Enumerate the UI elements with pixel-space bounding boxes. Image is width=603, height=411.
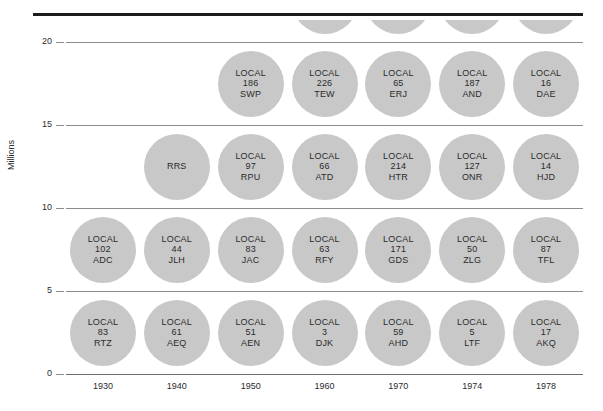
bubble-number: 127 xyxy=(464,161,480,172)
bubble-1930-RTZ[interactable]: LOCAL83RTZ xyxy=(70,300,136,366)
y-tick-label-10: 10 xyxy=(26,203,52,212)
bubble-prefix: LOCAL xyxy=(383,317,414,328)
y-tick-mark-0 xyxy=(56,374,64,375)
bubble-code: TFL xyxy=(538,255,555,266)
bubble-prefix: LOCAL xyxy=(383,234,414,245)
bubble-code: AHD xyxy=(389,338,409,349)
bubble-code: RTZ xyxy=(94,338,112,349)
bubble-code: AKQ xyxy=(536,338,556,349)
bubble-number: 5 xyxy=(470,327,475,338)
bubble-1978-DAE[interactable]: LOCAL16DAE xyxy=(513,51,579,117)
bubble-prefix: LOCAL xyxy=(162,317,193,328)
bubble-1940-AEQ[interactable]: LOCAL61AEQ xyxy=(144,300,210,366)
bubble-code: JAC xyxy=(242,255,260,266)
y-tick-label-20: 20 xyxy=(26,37,52,46)
bubble-1978-TFL[interactable]: LOCAL87TFL xyxy=(513,217,579,283)
bubble-1978-HJD[interactable]: LOCAL14HJD xyxy=(513,134,579,200)
bubble-1970-AHD[interactable]: LOCAL59AHD xyxy=(365,300,431,366)
x-tick-label-1940: 1940 xyxy=(147,381,207,391)
bubble-number: 66 xyxy=(319,161,329,172)
bubble-prefix: LOCAL xyxy=(383,68,414,79)
bubble-prefix: LOCAL xyxy=(88,234,119,245)
bubble-1960-DJK[interactable]: LOCAL3DJK xyxy=(292,300,358,366)
x-tick-label-1950: 1950 xyxy=(221,381,281,391)
bubble-number: 187 xyxy=(464,78,480,89)
plot-area: LOCAL83RTZLOCAL102ADCLOCAL61AEQLOCAL44JL… xyxy=(66,20,583,374)
bubble-number: 65 xyxy=(393,78,403,89)
bubble-number: 16 xyxy=(541,78,551,89)
bubble-1970-YGS[interactable]: LOCAL4YGS xyxy=(365,20,431,34)
bubble-1960-ATD[interactable]: LOCAL66ATD xyxy=(292,134,358,200)
y-tick-label-0: 0 xyxy=(26,369,52,378)
bubble-number: 3 xyxy=(322,327,327,338)
bubble-prefix: LOCAL xyxy=(457,234,488,245)
bubble-1974-ONR[interactable]: LOCAL127ONR xyxy=(439,134,505,200)
bubble-code: HJD xyxy=(537,172,555,183)
bubble-prefix: LOCAL xyxy=(309,234,340,245)
bubble-code: AND xyxy=(462,89,482,100)
bubble-1978-AKQ[interactable]: LOCAL17AKQ xyxy=(513,300,579,366)
bubble-number: 50 xyxy=(467,244,477,255)
bubble-number: 83 xyxy=(98,327,108,338)
bubble-code: LTF xyxy=(464,338,480,349)
bubble-1960-RFY[interactable]: LOCAL63RFY xyxy=(292,217,358,283)
bubble-1974-AND[interactable]: LOCAL187AND xyxy=(439,51,505,117)
bubble-prefix: LOCAL xyxy=(531,68,562,79)
bubble-number: 51 xyxy=(245,327,255,338)
bubble-code: JLH xyxy=(168,255,185,266)
bubble-number: 44 xyxy=(172,244,182,255)
bubble-1978-EAN[interactable]: LOCAL15EAN xyxy=(513,20,579,34)
bubble-number: 87 xyxy=(541,244,551,255)
bubble-code: ZLG xyxy=(463,255,481,266)
bubble-code: SWP xyxy=(240,89,261,100)
y-tick-mark-15 xyxy=(56,125,64,126)
bubble-1940-JLH[interactable]: LOCAL44JLH xyxy=(144,217,210,283)
x-tick-label-1930: 1930 xyxy=(73,381,133,391)
bubble-prefix: LOCAL xyxy=(162,234,193,245)
bubble-prefix: LOCAL xyxy=(309,317,340,328)
bubble-1970-GDS[interactable]: LOCAL171GDS xyxy=(365,217,431,283)
bubble-1950-SWP[interactable]: LOCAL186SWP xyxy=(218,51,284,117)
bubble-prefix: LOCAL xyxy=(309,151,340,162)
y-tick-label-5: 5 xyxy=(26,286,52,295)
bubble-1974-LTF[interactable]: LOCAL5LTF xyxy=(439,300,505,366)
bubble-code: AEQ xyxy=(167,338,187,349)
bubble-1960-CCS[interactable]: LOCAL28CCS xyxy=(292,20,358,34)
bubble-number: 226 xyxy=(317,78,333,89)
x-tick-label-1960: 1960 xyxy=(295,381,355,391)
bubble-code: DAE xyxy=(537,89,556,100)
bubble-code: GDS xyxy=(388,255,408,266)
bubble-1970-ERJ[interactable]: LOCAL65ERJ xyxy=(365,51,431,117)
bubble-1940-RRS[interactable]: RRS xyxy=(144,134,210,200)
bubble-1950-RPU[interactable]: LOCAL97RPU xyxy=(218,134,284,200)
y-tick-mark-5 xyxy=(56,291,64,292)
bubble-1960-TEW[interactable]: LOCAL226TEW xyxy=(292,51,358,117)
y-axis-title: Millions xyxy=(6,140,16,170)
x-tick-label-1974: 1974 xyxy=(442,381,502,391)
bubble-code: RRS xyxy=(167,161,187,172)
bubble-number: 61 xyxy=(172,327,182,338)
bubble-code: RPU xyxy=(241,172,261,183)
bubble-1950-AEN[interactable]: LOCAL51AEN xyxy=(218,300,284,366)
bubble-prefix: LOCAL xyxy=(235,234,266,245)
bubble-number: 97 xyxy=(245,161,255,172)
bubble-1970-HTR[interactable]: LOCAL214HTR xyxy=(365,134,431,200)
bubble-code: ATD xyxy=(316,172,334,183)
x-tick-label-1970: 1970 xyxy=(368,381,428,391)
bubble-1974-ZLG[interactable]: LOCAL50ZLG xyxy=(439,217,505,283)
bubble-number: 214 xyxy=(391,161,407,172)
bubble-code: RFY xyxy=(315,255,334,266)
bubble-number: 102 xyxy=(95,244,111,255)
bubble-code: ONR xyxy=(462,172,483,183)
bubble-number: 171 xyxy=(391,244,407,255)
bubble-code: ADC xyxy=(93,255,113,266)
bubble-code: TEW xyxy=(314,89,335,100)
bubble-prefix: LOCAL xyxy=(531,317,562,328)
x-axis-line xyxy=(66,374,583,375)
bubble-1950-JAC[interactable]: LOCAL83JAC xyxy=(218,217,284,283)
bubble-1930-ADC[interactable]: LOCAL102ADC xyxy=(70,217,136,283)
bubble-prefix: LOCAL xyxy=(383,151,414,162)
bubble-number: 17 xyxy=(541,327,551,338)
y-tick-mark-20 xyxy=(56,42,64,43)
bubble-1974-FRA[interactable]: LOCAL2FRA xyxy=(439,20,505,34)
